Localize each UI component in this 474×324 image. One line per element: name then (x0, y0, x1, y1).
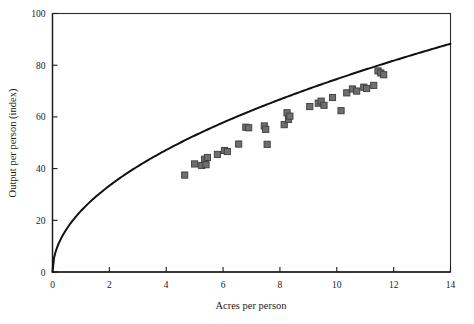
x-tick-label: 14 (446, 280, 456, 290)
y-tick-label: 40 (36, 164, 46, 174)
x-tick-label: 2 (107, 280, 112, 290)
plot-frame (53, 14, 451, 273)
data-point (381, 72, 387, 78)
x-axis-title: Acres per person (215, 300, 287, 311)
x-axis-ticks: 02468101214 (50, 267, 455, 290)
y-tick-label: 60 (36, 112, 46, 122)
data-point (236, 141, 242, 147)
data-point (329, 94, 335, 100)
x-tick-label: 4 (164, 280, 169, 290)
y-tick-label: 0 (41, 268, 46, 278)
data-point (287, 113, 293, 119)
data-point (224, 148, 230, 154)
fitted-curve (53, 44, 451, 272)
x-tick-label: 10 (332, 280, 342, 290)
y-axis-ticks: 020406080100 (31, 9, 57, 278)
x-tick-label: 12 (389, 280, 399, 290)
data-points-layer (182, 68, 387, 178)
data-point (182, 172, 188, 178)
data-point (338, 108, 344, 114)
x-tick-label: 6 (221, 280, 226, 290)
data-point (204, 154, 210, 160)
data-point (214, 151, 220, 157)
data-point (203, 162, 209, 168)
chart-figure: 02468101214 020406080100 Acres per perso… (0, 0, 474, 324)
data-point (371, 82, 377, 88)
x-tick-label: 0 (50, 280, 55, 290)
x-tick-label: 8 (278, 280, 283, 290)
y-axis-title: Output per person (index) (7, 88, 19, 197)
data-point (321, 102, 327, 108)
data-point (307, 103, 313, 109)
y-tick-label: 100 (31, 9, 46, 19)
data-point (264, 141, 270, 147)
y-tick-label: 80 (36, 61, 46, 71)
data-point (192, 161, 198, 167)
y-tick-label: 20 (36, 216, 46, 226)
data-point (364, 85, 370, 91)
scatter-plot-svg: 02468101214 020406080100 Acres per perso… (0, 0, 474, 324)
data-point (246, 125, 252, 131)
data-point (263, 126, 269, 132)
data-point (354, 88, 360, 94)
